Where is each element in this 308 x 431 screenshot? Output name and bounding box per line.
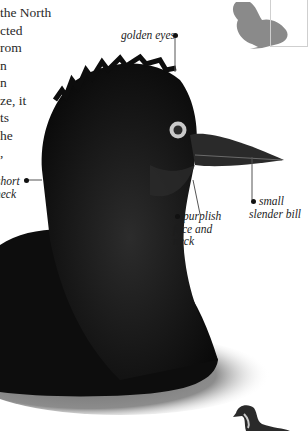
chick-illustration: [233, 405, 290, 431]
field-guide-page: the North cted rom n n ze, it ts he , go…: [0, 0, 308, 431]
body-line: ,: [0, 144, 70, 162]
body-line: n: [0, 74, 70, 92]
label-dot: [175, 214, 180, 219]
label-dot: [24, 178, 29, 183]
body-line: ts: [0, 109, 70, 127]
body-line: ze, it: [0, 92, 70, 110]
body-text-column: the North cted rom n n ze, it ts he ,: [0, 4, 70, 162]
label-short-neck: short neck: [0, 175, 20, 200]
label-golden-eyes: golden eyes: [121, 29, 175, 42]
body-line: he: [0, 127, 70, 145]
body-line: n: [0, 57, 70, 75]
label-dot: [173, 33, 178, 38]
label-dot: [251, 199, 256, 204]
bill: [190, 134, 284, 166]
body-line: the North: [0, 4, 70, 22]
label-small-bill: small slender bill: [249, 195, 301, 220]
size-silhouette-frame: [270, 0, 308, 47]
body-line: cted: [0, 22, 70, 40]
label-purplish-face: purplish face and neck: [173, 210, 221, 248]
body-line: rom: [0, 39, 70, 57]
